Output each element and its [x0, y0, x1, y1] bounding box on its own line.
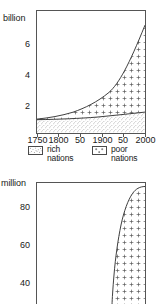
area-annual-increase: [37, 183, 145, 304]
legend-swatch-rich-nations: [28, 146, 43, 155]
area-fill-annual-increase: [112, 187, 145, 304]
y-tick-label-top-2: 2: [20, 101, 30, 111]
y-axis-unit-label-top: billion: [3, 13, 25, 23]
plot-area-millions: [36, 182, 146, 304]
legend: rich nations poor nations: [0, 144, 160, 170]
cross-hatch-pattern-icon: [93, 147, 106, 154]
legend-swatch-poor-nations: [92, 146, 107, 155]
y-axis-unit-label-bottom: million: [1, 178, 26, 188]
stacked-area-billions: [37, 11, 145, 133]
chart-panel-billions: billion 6 4 2: [0, 0, 160, 144]
area-poor-nations: [37, 25, 145, 120]
legend-label-rich-nations: rich nations: [47, 145, 73, 163]
stipple-pattern-icon: [29, 147, 42, 154]
y-tick-label-top-6: 6: [20, 39, 30, 49]
plot-area-billions: [36, 10, 146, 134]
y-tick-label-bottom-40: 40: [16, 278, 30, 288]
y-tick-label-bottom-80: 80: [16, 202, 30, 212]
y-tick-label-bottom-60: 60: [16, 240, 30, 250]
legend-entry-poor-nations: poor nations: [92, 145, 137, 163]
legend-entry-rich-nations: rich nations: [28, 145, 73, 163]
legend-label-poor-nations: poor nations: [111, 145, 137, 163]
chart-panel-millions: million 80 60 40: [0, 176, 160, 301]
y-tick-label-top-4: 4: [20, 70, 30, 80]
